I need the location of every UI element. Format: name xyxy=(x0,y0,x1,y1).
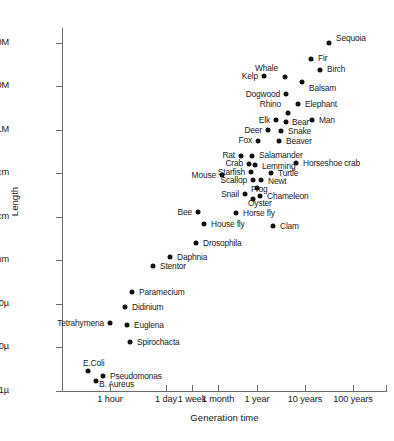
data-point-label: B. Aureus xyxy=(99,379,134,389)
x-axis-tick xyxy=(192,385,193,391)
data-point-label: Stentor xyxy=(160,261,186,271)
data-point xyxy=(271,224,276,229)
data-point xyxy=(196,210,201,215)
data-point-label: Birch xyxy=(327,64,345,74)
data-point xyxy=(243,192,248,197)
data-point-label: Beaver xyxy=(286,136,312,146)
data-point xyxy=(318,68,323,73)
data-point xyxy=(309,57,314,62)
data-point xyxy=(259,178,264,183)
data-point xyxy=(108,321,113,326)
y-axis-tick xyxy=(56,391,62,392)
data-point xyxy=(296,102,301,107)
data-point xyxy=(234,211,239,216)
data-point-label: Fir xyxy=(318,53,327,63)
data-point xyxy=(251,178,256,183)
data-point xyxy=(250,154,255,159)
x-axis-tick-label: 1 month xyxy=(202,394,235,404)
data-point-label: House fly xyxy=(211,219,245,229)
y-axis-line xyxy=(62,28,63,391)
y-axis-tick xyxy=(56,304,62,305)
data-point xyxy=(327,41,332,46)
data-point xyxy=(277,139,282,144)
data-point-label: Elk xyxy=(259,115,270,125)
data-point xyxy=(279,129,284,134)
data-point xyxy=(194,241,199,246)
data-point-label: Horse fly xyxy=(243,208,275,218)
data-point-label: Kelp xyxy=(242,71,258,81)
data-point xyxy=(310,118,315,123)
y-axis-tick xyxy=(56,217,62,218)
data-point-label: Elephant xyxy=(305,99,337,109)
data-point-label: Dogwood xyxy=(246,89,280,99)
data-point xyxy=(101,374,106,379)
data-point xyxy=(247,162,252,167)
data-point-label: Clam xyxy=(280,221,299,231)
data-point-label: E.Coli xyxy=(83,358,104,368)
data-point xyxy=(86,369,91,374)
data-point-label: Euglena xyxy=(134,320,164,330)
x-axis-tick-label: 1 year xyxy=(245,394,270,404)
data-point xyxy=(256,139,261,144)
data-point xyxy=(123,305,128,310)
data-point-label: Balsam xyxy=(309,83,336,93)
data-point-label: Whale xyxy=(255,63,278,73)
x-axis-line xyxy=(62,391,387,392)
data-point-label: Drosophila xyxy=(203,238,242,248)
data-point-label: Bee xyxy=(178,207,192,217)
y-axis-tick xyxy=(56,130,62,131)
data-point xyxy=(249,170,254,175)
data-point-label: Frog xyxy=(251,184,268,194)
data-point-label: Spirochacta xyxy=(137,337,180,347)
data-point-label: Rhino xyxy=(260,99,281,109)
y-axis-title: Length xyxy=(9,172,20,232)
data-point xyxy=(266,128,271,133)
scatter-chart: 100M10M1M10cm1cm1mm100µ10µ1µ 1 hour1 day… xyxy=(0,0,394,441)
data-point-label: Newt xyxy=(268,176,286,186)
y-axis-tick xyxy=(56,347,62,348)
data-point-label: Tetrahymena xyxy=(57,318,104,328)
x-axis-tick xyxy=(166,385,167,391)
x-axis-tick xyxy=(305,385,306,391)
y-axis-tick xyxy=(56,173,62,174)
data-point-label: Deer xyxy=(244,125,262,135)
data-point-label: Oyster xyxy=(248,198,272,208)
data-point xyxy=(286,111,291,116)
x-axis-tick-label: 10 years xyxy=(288,394,322,404)
data-point xyxy=(253,163,258,168)
x-axis-tick xyxy=(386,385,387,391)
data-point xyxy=(283,75,288,80)
data-point xyxy=(300,80,305,85)
y-axis-tick-label: 1µ xyxy=(0,385,9,395)
y-axis-tick-label: 100M xyxy=(0,37,9,47)
data-point-label: Snake xyxy=(288,126,311,136)
data-point xyxy=(130,290,135,295)
x-axis-tick-label: 1 hour xyxy=(97,394,122,404)
x-axis-tick-label: 100 years xyxy=(333,394,372,404)
y-axis-tick-label: 1mm xyxy=(0,254,9,264)
data-point xyxy=(168,255,173,260)
data-point-label: Snail xyxy=(221,189,239,199)
y-axis-tick-label: 1M xyxy=(0,124,9,134)
y-axis-tick xyxy=(56,260,62,261)
data-point xyxy=(202,222,207,227)
y-axis-tick xyxy=(56,86,62,87)
data-point-label: Salamander xyxy=(259,150,303,160)
data-point xyxy=(94,379,99,384)
y-axis-tick xyxy=(56,43,62,44)
x-axis-tick xyxy=(353,385,354,391)
data-point-label: Sequoia xyxy=(336,33,366,43)
data-point xyxy=(151,264,156,269)
data-point-label: Horseshoe crab xyxy=(303,158,360,168)
data-point-label: Didinium xyxy=(132,302,163,312)
data-point-label: Chameleon xyxy=(267,191,308,201)
data-point xyxy=(262,74,267,79)
x-axis-tick-label: 1 day xyxy=(155,394,177,404)
data-point xyxy=(128,340,133,345)
data-point xyxy=(269,171,274,176)
data-point xyxy=(274,118,279,123)
data-point-label: Mouse xyxy=(192,170,216,180)
y-axis-tick-label: 10µ xyxy=(0,341,9,351)
data-point-label: Paramecium xyxy=(139,287,185,297)
data-point-label: Man xyxy=(319,115,335,125)
